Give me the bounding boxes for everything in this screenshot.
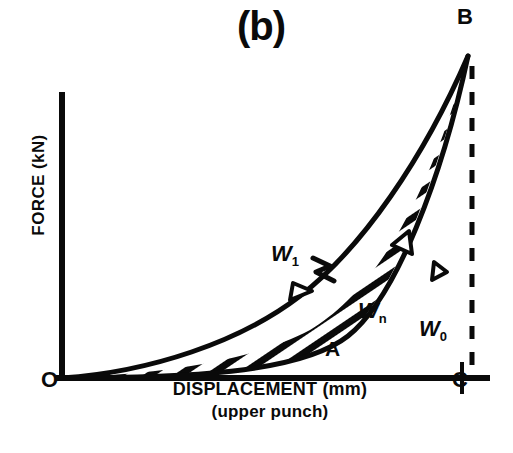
region-label-w0-sub: 0 <box>440 329 447 344</box>
point-label-a: A <box>325 338 340 359</box>
region-label-w1-sub: 1 <box>292 254 299 269</box>
y-axis-title: FORCE (kN) <box>29 110 49 260</box>
region-label-w0: W0 <box>419 318 447 343</box>
region-label-w1: W1 <box>271 243 299 268</box>
arrowhead-group-lower <box>432 262 447 280</box>
arrowhead-upper-lower-icon <box>290 283 312 300</box>
arrowhead-lower-mid-icon <box>432 262 447 280</box>
region-label-wn: Wn <box>358 300 387 325</box>
x-axis-title: DISPLACEMENT (mm) <box>110 379 430 400</box>
region-label-w1-base: W <box>271 241 292 266</box>
region-label-wn-sub: n <box>379 311 387 326</box>
region-label-w0-base: W <box>419 316 440 341</box>
hatched-region-wn <box>62 56 468 378</box>
x-axis-subtitle: (upper punch) <box>110 402 430 422</box>
point-label-b: B <box>457 6 473 28</box>
region-label-wn-base: W <box>358 298 379 323</box>
panel-title: (b) <box>186 6 336 46</box>
point-label-o: O <box>41 369 58 391</box>
point-label-c: C <box>452 369 468 391</box>
